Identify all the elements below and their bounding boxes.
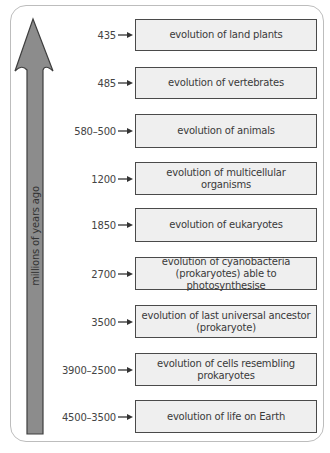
event-label: evolution of life on Earth xyxy=(167,411,285,423)
event-time-label: 435 xyxy=(98,30,117,41)
event-time-label: 3500 xyxy=(91,316,116,327)
event-label: evolution of vertebrates xyxy=(168,77,284,89)
pointer-arrow-icon xyxy=(118,270,134,278)
event-time-label: 1200 xyxy=(91,173,116,184)
event-box: evolution of animals xyxy=(135,114,317,148)
event-time-label: 3900–2500 xyxy=(62,364,116,375)
pointer-arrow-icon xyxy=(118,127,134,135)
axis-label: millions of years ago xyxy=(30,186,41,286)
event-box: evolution of vertebrates xyxy=(135,67,317,99)
event-label: evolution of eukaryotes xyxy=(169,219,283,231)
event-label: evolution of land plants xyxy=(169,29,282,41)
event-box: evolution of cyanobacteria (prokaryotes)… xyxy=(135,257,317,290)
event-box: evolution of cells resembling prokaryote… xyxy=(135,353,317,386)
pointer-arrow-icon xyxy=(118,413,134,421)
pointer-arrow-icon xyxy=(118,366,134,374)
event-time-label: 4500–3500 xyxy=(62,411,116,422)
event-time-label: 485 xyxy=(98,78,117,89)
pointer-arrow-icon xyxy=(118,318,134,326)
pointer-arrow-icon xyxy=(118,79,134,87)
event-box: evolution of land plants xyxy=(135,19,317,51)
pointer-arrow-icon xyxy=(118,175,134,183)
event-time-label: 1850 xyxy=(91,220,116,231)
pointer-arrow-icon xyxy=(118,31,134,39)
event-box: evolution of last universal ancestor (pr… xyxy=(135,305,317,338)
event-label: evolution of multicellular organisms xyxy=(140,167,312,191)
event-box: evolution of multicellular organisms xyxy=(135,162,317,195)
event-box: evolution of life on Earth xyxy=(135,400,317,433)
event-time-label: 580–500 xyxy=(74,126,116,137)
event-label: evolution of last universal ancestor (pr… xyxy=(140,310,312,334)
event-label: evolution of animals xyxy=(177,125,275,137)
event-label: evolution of cyanobacteria (prokaryotes)… xyxy=(140,256,312,292)
event-time-label: 2700 xyxy=(91,268,116,279)
pointer-arrow-icon xyxy=(118,221,134,229)
event-label: evolution of cells resembling prokaryote… xyxy=(140,358,312,382)
event-box: evolution of eukaryotes xyxy=(135,208,317,242)
